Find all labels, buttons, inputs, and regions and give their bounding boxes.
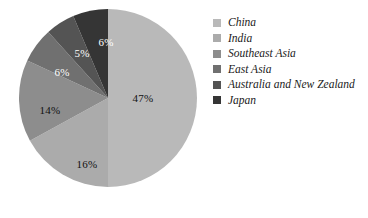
legend-item[interactable]: India [213, 31, 363, 47]
legend-color-swatch-icon [213, 96, 221, 104]
pie-slice-value-label: 47% [133, 93, 154, 104]
legend-item-label: Australia and New Zealand [228, 79, 355, 91]
legend-item[interactable]: East Asia [213, 62, 363, 78]
legend-item-label: China [228, 17, 256, 29]
pie-slice-value-label: 5% [74, 48, 89, 59]
legend-color-swatch-icon [213, 34, 221, 42]
legend-item-label: Southeast Asia [228, 48, 296, 60]
pie-slice-value-label: 6% [54, 67, 69, 78]
legend-item[interactable]: China [213, 15, 363, 31]
legend-item[interactable]: Japan [213, 93, 363, 109]
pie-slice-value-label: 14% [40, 105, 61, 116]
legend-item-label: Japan [228, 95, 256, 107]
legend-item[interactable]: Southeast Asia [213, 46, 363, 62]
pie-slice-value-label: 16% [77, 159, 98, 170]
legend-item[interactable]: Australia and New Zealand [213, 77, 363, 93]
legend-item-label: East Asia [228, 64, 272, 76]
legend-color-swatch-icon [213, 19, 221, 27]
pie-slice-value-label: 6% [98, 37, 113, 48]
pie-chart-figure: 47%16%14%6%5%6% ChinaIndiaSoutheast Asia… [0, 0, 368, 218]
legend-color-swatch-icon [213, 50, 221, 58]
legend-item-label: India [228, 33, 252, 45]
legend-color-swatch-icon [213, 65, 221, 73]
pie-plot-area: 47%16%14%6%5%6% [18, 8, 198, 188]
chart-legend: ChinaIndiaSoutheast AsiaEast AsiaAustral… [213, 15, 363, 108]
legend-color-swatch-icon [213, 81, 221, 89]
